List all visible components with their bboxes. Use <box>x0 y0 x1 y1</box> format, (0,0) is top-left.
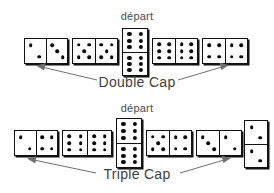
double-cap-label: Double Cap <box>0 74 274 90</box>
triple-cap-row: départ <box>0 96 274 193</box>
triple-cap-label: Triple Cap <box>0 166 274 182</box>
arrow-right-head <box>222 156 232 163</box>
arrow-left-head <box>27 156 37 163</box>
domino-diagram: départ <box>0 0 274 193</box>
arrow-left-head <box>36 63 46 70</box>
double-cap-row: départ <box>0 0 274 97</box>
arrow-right-head <box>220 63 230 70</box>
